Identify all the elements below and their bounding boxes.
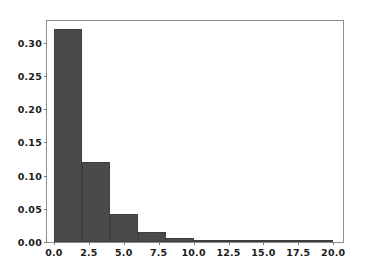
histogram-figure: 0.02.55.07.510.012.515.017.520.0 0.000.0… <box>0 0 367 271</box>
y-tick-mark <box>44 209 47 210</box>
y-tick-label: 0.25 <box>18 70 42 81</box>
y-tick-label: 0.30 <box>18 37 42 48</box>
histogram-bar <box>110 214 138 242</box>
histogram-bar <box>166 238 194 242</box>
y-tick-mark <box>44 142 47 143</box>
y-tick-mark <box>44 43 47 44</box>
x-tick-label: 12.5 <box>216 247 240 258</box>
x-tick-label: 20.0 <box>321 247 345 258</box>
x-tick-mark <box>124 242 125 245</box>
y-tick-label: 0.10 <box>18 170 42 181</box>
x-tick-mark <box>159 242 160 245</box>
y-tick-label: 0.05 <box>18 203 42 214</box>
histogram-bar <box>277 240 305 242</box>
x-tick-mark <box>229 242 230 245</box>
x-tick-mark <box>263 242 264 245</box>
x-tick-mark <box>333 242 334 245</box>
histogram-bar <box>222 240 250 242</box>
x-tick-label: 15.0 <box>251 247 275 258</box>
x-tick-label: 10.0 <box>181 247 205 258</box>
x-tick-label: 2.5 <box>80 247 97 258</box>
y-tick-mark <box>44 76 47 77</box>
x-tick-label: 0.0 <box>45 247 62 258</box>
y-tick-label: 0.15 <box>18 137 42 148</box>
histogram-bar <box>194 240 222 242</box>
histogram-bar <box>82 162 110 242</box>
y-tick-mark <box>44 242 47 243</box>
x-tick-label: 17.5 <box>286 247 310 258</box>
histogram-bar <box>138 232 166 242</box>
histogram-bar <box>305 240 333 242</box>
histogram-bar <box>54 29 82 242</box>
y-tick-label: 0.00 <box>18 237 42 248</box>
x-tick-mark <box>298 242 299 245</box>
plot-area <box>47 21 343 242</box>
y-tick-mark <box>44 176 47 177</box>
x-tick-mark <box>54 242 55 245</box>
x-tick-mark <box>89 242 90 245</box>
y-tick-mark <box>44 109 47 110</box>
y-tick-label: 0.20 <box>18 104 42 115</box>
x-tick-label: 7.5 <box>150 247 167 258</box>
x-tick-label: 5.0 <box>115 247 132 258</box>
plot-axes: 0.02.55.07.510.012.515.017.520.0 0.000.0… <box>46 20 344 243</box>
x-tick-mark <box>194 242 195 245</box>
